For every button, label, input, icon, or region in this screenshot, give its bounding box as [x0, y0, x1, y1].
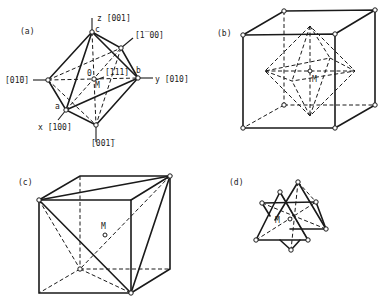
cube-vertex: [241, 126, 245, 130]
panel-c-label: (c): [18, 178, 32, 187]
panel-b-cube-octahedron: (b) M: [217, 8, 377, 130]
cube-vertex: [373, 8, 377, 12]
cube-vertex: [282, 103, 286, 107]
cube-front-face: [243, 34, 335, 128]
z-axis-label: z [001]: [97, 14, 131, 23]
tetra-vertex: [296, 180, 300, 184]
vertex-a: [64, 108, 68, 112]
center-m-label: M: [95, 81, 100, 90]
tetra-vertex: [278, 190, 282, 194]
panel-a-label: (a): [20, 27, 34, 36]
vertex-neg-x: [119, 46, 123, 50]
neg-x-axis-label: [1̅ 00]: [135, 31, 164, 40]
crystal-figure: (a) z [001] c [1̅ 00] [01̅0] b y [010] 0…: [0, 0, 389, 305]
vertex-c-label: c: [95, 25, 100, 34]
octahedron-edge: [310, 58, 330, 116]
cube-hidden-edge: [243, 105, 284, 128]
tetra-vertex: [254, 238, 258, 242]
neg-y-axis-label: [01̅0]: [5, 76, 29, 85]
vertex-a-label: a: [55, 102, 60, 111]
tetra-vertex: [314, 200, 318, 204]
y-axis-label: y [010]: [155, 75, 189, 84]
center-m-label: M: [275, 216, 280, 225]
panel-a-octahedron: (a) z [001] c [1̅ 00] [01̅0] b y [010] 0…: [5, 14, 189, 148]
back-tetra-edge: [275, 182, 298, 220]
tetra-vertex: [78, 267, 82, 271]
tetra-vertex: [260, 201, 264, 205]
tetra-vertex: [37, 198, 41, 202]
vertex-neg-z: [94, 123, 98, 127]
vertex-neg-y: [46, 78, 50, 82]
cube-vertex: [282, 9, 286, 13]
cube-right-edges: [335, 10, 375, 128]
octahedron-edge: [292, 81, 310, 116]
vertex-c: [90, 30, 94, 34]
panel-d-double-tetrahedra: (d) M: [229, 178, 328, 252]
center-m-label: M: [101, 222, 106, 231]
cube-top-face: [243, 10, 375, 35]
diag-111-label: [111]: [105, 68, 129, 77]
tetra-vertex: [129, 291, 133, 295]
center-m: [308, 69, 312, 73]
cube-vertex: [373, 103, 377, 107]
tetra-edge: [39, 200, 131, 293]
vertex-b-label: b: [136, 66, 141, 75]
tetra-hidden-edge: [80, 269, 131, 293]
tetra-vertex: [289, 248, 293, 252]
vertex-b: [136, 76, 140, 80]
cube-vertex: [333, 32, 337, 36]
center-m: [288, 217, 292, 221]
x-axis-label: x [100]: [38, 123, 72, 132]
tetra-edge: [131, 176, 170, 293]
back-tetra-edge: [262, 202, 316, 203]
panel-c-cube-tetrahedron: (c) M: [18, 174, 172, 295]
back-tetra-outline: [290, 182, 326, 229]
octahedron-edge: [310, 26, 330, 58]
cube-hidden-edge: [39, 269, 80, 293]
tetra-vertex: [324, 227, 328, 231]
tetra-vertex: [168, 174, 172, 178]
cube-vertex: [333, 126, 337, 130]
cube-vertex: [241, 33, 245, 37]
origin-label: 0: [87, 69, 92, 78]
center-m: [103, 233, 107, 237]
tetra-vertex: [306, 238, 310, 242]
center-m-label: M: [312, 75, 317, 84]
panel-d-label: (d): [229, 178, 243, 187]
panel-b-label: (b): [217, 29, 231, 38]
neg-z-axis-label: [001̅]: [91, 139, 115, 148]
hidden-edge: [262, 203, 326, 229]
front-tetra-outline: [256, 192, 308, 240]
